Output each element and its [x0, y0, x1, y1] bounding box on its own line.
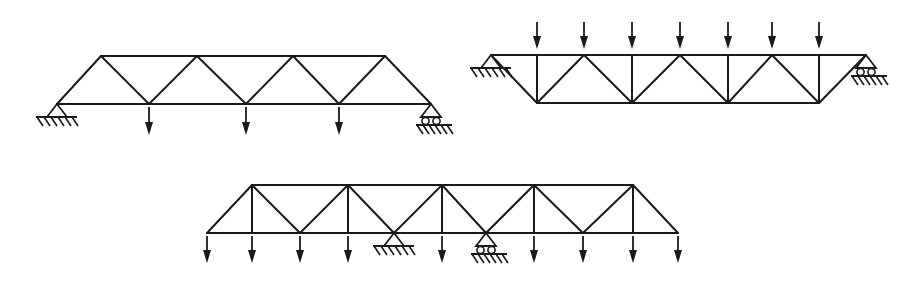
ground-hatch [502, 254, 508, 263]
ground-hatch [496, 254, 502, 263]
truss-member [300, 185, 348, 233]
truss-member [442, 185, 486, 233]
pin-support-icon [373, 233, 415, 255]
truss-member [348, 185, 394, 233]
load-arrow-icon [533, 22, 541, 49]
load-arrow-icon [335, 107, 343, 135]
ground-hatch [65, 117, 71, 126]
ground-hatch [429, 125, 435, 134]
load-arrow-icon [628, 22, 636, 49]
pin-support-icon [36, 104, 78, 126]
load-arrow-icon [530, 236, 538, 263]
point-loads [203, 236, 682, 263]
ground-hatch [852, 76, 858, 85]
load-arrow-icon [768, 22, 776, 49]
truss-member [728, 55, 772, 103]
roller-wheel [433, 117, 440, 124]
truss-member [101, 56, 149, 104]
load-arrow-icon [676, 22, 684, 49]
load-arrow-icon [580, 22, 588, 49]
ground-hatch [72, 117, 78, 126]
ground-hatch [490, 254, 496, 263]
truss-member [819, 55, 866, 103]
ground-hatch [484, 254, 490, 263]
roller-triangle [421, 104, 441, 117]
load-arrow-icon [674, 236, 682, 263]
pin-triangle [47, 104, 67, 117]
load-arrow-icon [248, 236, 256, 263]
roller-wheel [422, 117, 429, 124]
ground-hatch [447, 125, 453, 134]
truss-member [491, 55, 537, 103]
truss-member [537, 55, 584, 103]
truss-member [632, 55, 680, 103]
ground-hatch [44, 117, 50, 126]
roller-wheel [477, 246, 484, 253]
truss-member [772, 55, 819, 103]
ground-hatch [402, 246, 408, 255]
roller-triangle [476, 233, 496, 246]
roller-support-icon [416, 104, 453, 134]
load-arrow-icon [438, 236, 446, 263]
point-loads [145, 107, 343, 135]
truss-member [584, 55, 632, 103]
roller-wheel [868, 68, 875, 75]
load-arrow-icon [242, 107, 250, 135]
ground-hatch [471, 68, 477, 77]
truss-member [149, 56, 197, 104]
roller-wheel [857, 68, 864, 75]
ground-hatch [417, 125, 423, 134]
truss-member [252, 185, 300, 233]
ground-hatch [876, 76, 882, 85]
truss-member [486, 185, 534, 233]
load-arrow-icon [579, 236, 587, 263]
truss-b [470, 22, 888, 103]
truss-member [534, 185, 583, 233]
ground-hatch [870, 76, 876, 85]
ground-hatch [388, 246, 394, 255]
ground-hatch [864, 76, 870, 85]
ground-hatch [485, 68, 491, 77]
ground-hatch [409, 246, 415, 255]
load-arrow-icon [344, 236, 352, 263]
load-arrow-icon [145, 107, 153, 135]
truss-member [293, 56, 339, 104]
ground-hatch [374, 246, 380, 255]
ground-hatch [37, 117, 43, 126]
load-arrow-icon [724, 22, 732, 49]
truss-member [57, 56, 101, 104]
ground-hatch [423, 125, 429, 134]
ground-hatch [858, 76, 864, 85]
roller-wheel [488, 246, 495, 253]
ground-hatch [472, 254, 478, 263]
truss-member [339, 56, 385, 104]
truss-a [36, 56, 453, 135]
pin-support-icon [470, 55, 512, 77]
truss-member [680, 55, 728, 103]
ground-hatch [492, 68, 498, 77]
ground-hatch [478, 68, 484, 77]
ground-hatch [441, 125, 447, 134]
ground-hatch [478, 254, 484, 263]
truss-member [394, 185, 442, 233]
load-arrow-icon [629, 236, 637, 263]
ground-hatch [882, 76, 888, 85]
point-loads [533, 22, 823, 49]
truss-c [203, 185, 682, 263]
load-arrow-icon [815, 22, 823, 49]
roller-support-icon [471, 233, 508, 263]
truss-member [207, 185, 252, 233]
pin-triangle [384, 233, 404, 246]
truss-diagram-canvas [0, 0, 921, 282]
ground-hatch [395, 246, 401, 255]
truss-members [491, 55, 866, 103]
roller-support-icon [851, 55, 888, 85]
truss-member [633, 185, 678, 233]
load-arrow-icon [296, 236, 304, 263]
load-arrow-icon [203, 236, 211, 263]
ground-hatch [435, 125, 441, 134]
ground-hatch [58, 117, 64, 126]
truss-members [207, 185, 678, 233]
truss-member [197, 56, 246, 104]
truss-member [385, 56, 431, 104]
